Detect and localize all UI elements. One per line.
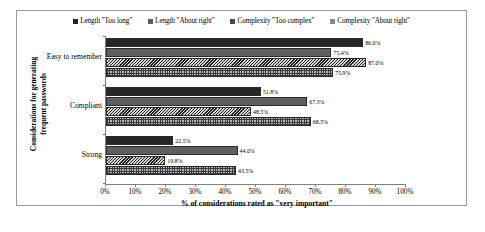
bar-value-label: 51.8% — [261, 87, 278, 97]
x-tick-label: 30% — [180, 188, 210, 197]
bar-row: 75.9% — [106, 68, 405, 77]
bar-value-label: 86.0% — [363, 38, 380, 48]
legend-label-length-too-long: Length "Too long" — [80, 17, 132, 25]
bar-group-easy-to-remember: 86.0% 75.4% 87.0% 75.9% — [106, 38, 405, 82]
bar-length-about-right[interactable] — [106, 97, 307, 106]
legend-swatch-length-too-long — [73, 19, 78, 24]
legend-item-length-too-long[interactable]: Length "Too long" — [73, 17, 132, 25]
legend-item-complexity-about-right[interactable]: Complexity "About right" — [330, 17, 410, 25]
x-tick-label: 90% — [360, 188, 390, 197]
x-axis-tick — [315, 184, 316, 187]
y-tick-label-strong: Strong — [16, 150, 102, 159]
x-tick-label: 70% — [300, 188, 330, 197]
bar-group-compliant: 51.8% 67.3% 48.5% 68.5% — [106, 87, 405, 131]
bar-value-label: 67.3% — [307, 97, 324, 107]
x-axis-tick — [165, 184, 166, 187]
bar-row: 87.0% — [106, 58, 405, 67]
plot-inner: Easy to remember Compliant Strong 86.0% … — [105, 36, 405, 184]
y-axis-tick — [103, 36, 106, 37]
bar-complexity-about-right[interactable] — [106, 166, 236, 175]
bar-row: 67.3% — [106, 97, 405, 106]
bar-value-label: 22.5% — [173, 136, 190, 146]
x-axis: 0% 10% 20% 30% 40% 50% 60% 70% 80% 90% 1… — [105, 184, 405, 185]
bar-row: 68.5% — [106, 117, 405, 126]
x-tick-label: 100% — [390, 188, 420, 197]
x-axis-tick — [255, 184, 256, 187]
bar-length-too-long[interactable] — [106, 87, 261, 96]
legend-swatch-length-about-right — [148, 19, 153, 24]
bar-row: 48.5% — [106, 107, 405, 116]
y-tick-label-easy-to-remember: Easy to remember — [16, 52, 102, 61]
legend-label-complexity-too-complex: Complexity "Too complex" — [237, 17, 314, 25]
x-tick-label: 80% — [330, 188, 360, 197]
bar-value-label: 87.0% — [366, 58, 383, 68]
bar-row: 43.5% — [106, 166, 405, 175]
bar-row: 22.5% — [106, 136, 405, 145]
bar-value-label: 68.5% — [311, 117, 328, 127]
x-tick-label: 60% — [270, 188, 300, 197]
bar-group-strong: 22.5% 44.0% 19.8% 43.5% — [106, 136, 405, 180]
legend-item-complexity-too-complex[interactable]: Complexity "Too complex" — [230, 17, 314, 25]
bar-complexity-about-right[interactable] — [106, 117, 311, 126]
x-tick-label: 10% — [120, 188, 150, 197]
y-tick-label-compliant: Compliant — [16, 101, 102, 110]
x-axis-tick — [345, 184, 346, 187]
bar-value-label: 43.5% — [236, 166, 253, 176]
bar-row: 86.0% — [106, 38, 405, 47]
bar-length-about-right[interactable] — [106, 48, 331, 57]
y-axis-tick — [103, 85, 106, 86]
legend-swatch-complexity-too-complex — [230, 19, 235, 24]
bar-row: 51.8% — [106, 87, 405, 96]
bar-complexity-about-right[interactable] — [106, 68, 333, 77]
x-axis-tick — [375, 184, 376, 187]
bar-row: 19.8% — [106, 156, 405, 165]
x-tick-label: 0% — [90, 188, 120, 197]
bar-complexity-too-complex[interactable] — [106, 107, 251, 116]
bar-complexity-too-complex[interactable] — [106, 156, 165, 165]
chart-frame: Length "Too long" Length "About right" C… — [16, 10, 467, 206]
bar-value-label: 48.5% — [251, 107, 268, 117]
x-axis-tick — [195, 184, 196, 187]
chart-legend: Length "Too long" Length "About right" C… — [17, 17, 466, 25]
bar-value-label: 44.0% — [238, 146, 255, 156]
x-tick-label: 50% — [240, 188, 270, 197]
legend-label-complexity-about-right: Complexity "About right" — [337, 17, 410, 25]
bar-length-too-long[interactable] — [106, 38, 363, 47]
plot-area: Easy to remember Compliant Strong 86.0% … — [105, 36, 405, 184]
legend-item-length-about-right[interactable]: Length "About right" — [148, 17, 214, 25]
bar-row: 75.4% — [106, 48, 405, 57]
x-axis-tick — [105, 184, 106, 187]
bar-length-too-long[interactable] — [106, 136, 173, 145]
bar-value-label: 75.4% — [331, 48, 348, 58]
x-axis-title: % of considerations rated as "very impor… — [57, 199, 457, 209]
bar-row: 44.0% — [106, 146, 405, 155]
legend-label-length-about-right: Length "About right" — [155, 17, 214, 25]
x-axis-tick — [225, 184, 226, 187]
bar-value-label: 75.9% — [333, 68, 350, 78]
y-axis-tick — [103, 134, 106, 135]
x-tick-label: 40% — [210, 188, 240, 197]
bar-length-about-right[interactable] — [106, 146, 238, 155]
x-tick-label: 20% — [150, 188, 180, 197]
legend-swatch-complexity-about-right — [330, 19, 335, 24]
x-axis-tick — [135, 184, 136, 187]
x-axis-tick — [285, 184, 286, 187]
x-axis-tick — [405, 184, 406, 187]
bar-value-label: 19.8% — [165, 156, 182, 166]
bar-complexity-too-complex[interactable] — [106, 58, 366, 67]
